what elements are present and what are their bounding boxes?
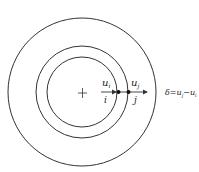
label-i: i bbox=[104, 95, 107, 105]
label-u-j: uj bbox=[131, 77, 139, 90]
node-j bbox=[127, 90, 131, 94]
label-j: j bbox=[132, 95, 137, 105]
label-u-i: ui bbox=[102, 77, 110, 89]
center-cross-icon bbox=[78, 88, 87, 98]
diagram-canvas: ui i uj j δ=uj−ui bbox=[0, 0, 199, 172]
node-i bbox=[117, 90, 121, 94]
formula-delta: δ=uj−ui bbox=[165, 88, 197, 99]
